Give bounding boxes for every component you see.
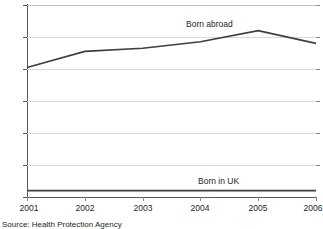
series-canvas [0,0,323,229]
source-note: Source: Health Protection Agency [2,220,122,229]
series-label-born-abroad: Born abroad [186,19,233,30]
series-label-born-in-uk: Born in UK [198,176,239,187]
series-line-born-abroad [27,31,316,68]
line-chart-figure: 120 100 80 60 40 20 0 2001 2002 2003 200… [0,0,323,229]
